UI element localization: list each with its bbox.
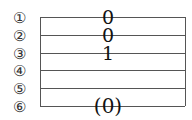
string-label-4: ④ bbox=[11, 63, 27, 79]
string-label-2: ② bbox=[11, 28, 27, 44]
string-label-3: ③ bbox=[11, 46, 27, 62]
fret-number-string-6: (0) bbox=[88, 97, 128, 116]
string-label-1: ① bbox=[11, 10, 27, 26]
string-line-5 bbox=[40, 88, 185, 89]
string-label-6: ⑥ bbox=[11, 99, 27, 115]
string-line-4 bbox=[40, 70, 185, 71]
string-label-5: ⑤ bbox=[11, 81, 27, 97]
fret-number-string-3: 1 bbox=[88, 44, 128, 63]
